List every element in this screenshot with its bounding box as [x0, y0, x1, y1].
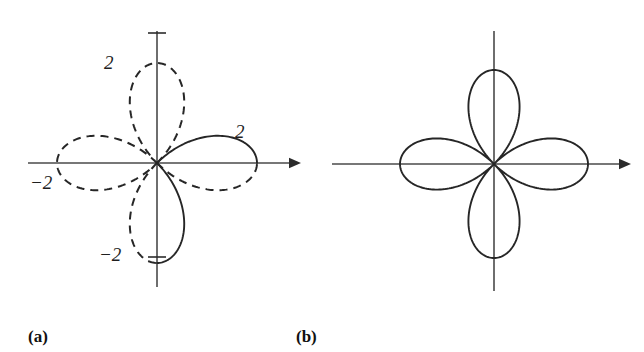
panel-b-axes	[332, 31, 631, 291]
tick-label-right: 2	[235, 122, 245, 141]
panel-b: (b)	[322, 0, 644, 352]
x-axis-arrow-icon	[619, 159, 631, 169]
tick-label-left: −2	[30, 173, 52, 192]
panel-b-plot	[322, 0, 644, 312]
panel-a: 2 2 −2 −2 (a)	[0, 0, 322, 352]
panel-caption-a: (a)	[28, 328, 48, 345]
x-axis-arrow-icon	[289, 158, 301, 168]
tick-label-bottom: −2	[99, 245, 121, 264]
panel-caption-b: (b)	[296, 328, 317, 345]
panel-a-axes	[28, 31, 301, 287]
figure-root: 2 2 −2 −2 (a) (b)	[0, 0, 644, 352]
panel-a-plot	[0, 0, 322, 312]
tick-label-top: 2	[104, 53, 114, 72]
rose-solid-segments	[157, 136, 257, 263]
